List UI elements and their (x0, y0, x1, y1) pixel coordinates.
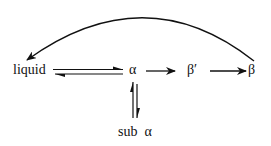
node-sub-alpha: sub α (118, 125, 152, 139)
curved-arrow-beta-to-liquid (27, 18, 254, 61)
node-beta: β (248, 63, 255, 77)
phase-diagram: liquid α β′ β sub α (0, 0, 271, 146)
equilibrium-arrow-alpha-sub-alpha (130, 82, 140, 118)
node-alpha: α (129, 63, 136, 77)
node-beta-prime: β′ (187, 63, 197, 77)
node-liquid: liquid (13, 63, 46, 77)
equilibrium-arrow-liquid-alpha (53, 67, 123, 78)
